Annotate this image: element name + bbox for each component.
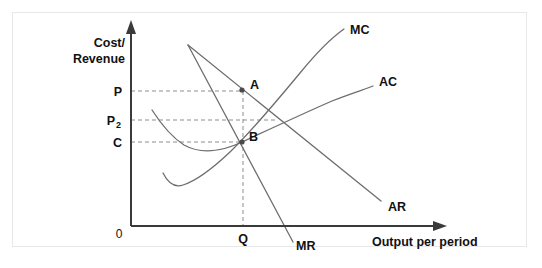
y-axis-label-line1: Cost/ (94, 36, 126, 50)
origin-label: 0 (116, 227, 123, 241)
x-axis-label: Output per period (372, 235, 478, 249)
y-tick-label-C: C (113, 136, 122, 150)
curve-AR (188, 45, 381, 201)
y-axis-arrow (126, 20, 136, 34)
point-B-marker (239, 139, 244, 144)
x-axis-arrow (433, 221, 447, 231)
point-A-marker (239, 87, 244, 92)
y-tick-label-P: P (114, 85, 122, 99)
point-label-A: A (250, 78, 259, 92)
y-tick-label-P2: P (107, 114, 115, 128)
curves (152, 29, 381, 242)
curve-label-MC: MC (350, 23, 369, 37)
equilibrium-points (239, 87, 244, 144)
x-tick-label-Q: Q (238, 232, 248, 246)
curve-label-MR: MR (296, 239, 315, 253)
y-tick-label-P2-subscript: 2 (116, 120, 121, 130)
curve-AC (152, 86, 373, 151)
chart-canvas: Cost/ Revenue Output per period 0 P P 2 … (0, 0, 542, 268)
curve-label-AC: AC (379, 75, 397, 89)
labels: Cost/ Revenue Output per period 0 P P 2 … (73, 23, 478, 253)
curve-label-AR: AR (388, 200, 406, 214)
point-label-B: B (249, 130, 258, 144)
economics-diagram: Cost/ Revenue Output per period 0 P P 2 … (0, 0, 542, 268)
y-axis-label-line2: Revenue (73, 52, 125, 66)
